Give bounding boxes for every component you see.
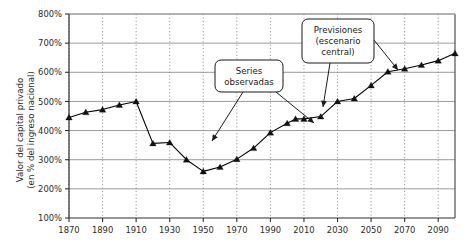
x-tick-label: 1970	[226, 225, 247, 235]
x-tick-label: 2070	[394, 225, 415, 235]
annotation-text-line: Series	[236, 66, 263, 76]
y-tick-label: 400%	[38, 126, 62, 136]
annotation-text-line: central)	[321, 47, 354, 57]
x-tick-label: 1870	[58, 225, 79, 235]
x-tick-label: 1890	[92, 225, 113, 235]
y-tick-label: 500%	[38, 97, 62, 107]
x-tick-label: 2010	[293, 225, 314, 235]
x-tick-label: 2090	[428, 225, 449, 235]
y-tick-label: 200%	[38, 184, 62, 194]
chart-container: 800%700%600%500%400%300%200%100% 1870189…	[0, 0, 467, 247]
y-tick-label: 700%	[38, 38, 62, 48]
x-tick-label: 1930	[159, 225, 180, 235]
y-tick-label: 100%	[38, 213, 62, 223]
capital-value-line-chart: 800%700%600%500%400%300%200%100% 1870189…	[0, 0, 467, 247]
y-axis-title: Valor del capital privado (en % del ingr…	[15, 71, 36, 189]
annotation-text-line: (escenario	[315, 36, 360, 46]
annotation-text-line: observadas	[224, 77, 274, 87]
chart-background	[0, 0, 467, 247]
y-axis-title-line2: (en % del ingreso nacional)	[26, 71, 36, 189]
y-axis-title-line1: Valor del capital privado	[15, 78, 25, 182]
annotation-text-line: Previsiones	[314, 25, 363, 35]
x-tick-label: 1950	[193, 225, 214, 235]
x-tick-label: 2030	[327, 225, 348, 235]
y-tick-label: 600%	[38, 67, 62, 77]
x-tick-label: 1990	[260, 225, 281, 235]
y-tick-label: 300%	[38, 155, 62, 165]
x-tick-label: 2050	[360, 225, 381, 235]
y-tick-label: 800%	[38, 9, 62, 19]
x-tick-label: 1910	[125, 225, 146, 235]
